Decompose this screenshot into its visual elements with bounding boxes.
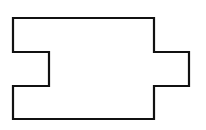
diagram-canvas <box>0 0 206 130</box>
notched-rectangle-shape <box>13 18 189 119</box>
